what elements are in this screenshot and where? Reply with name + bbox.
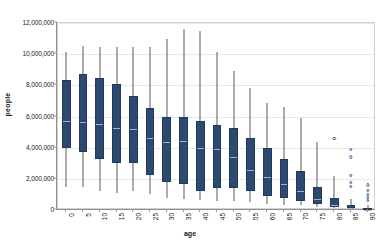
box-plot-75	[313, 23, 322, 208]
box-iqr	[229, 128, 238, 188]
outlier-point	[366, 189, 369, 192]
x-axis-tick-mark	[283, 209, 284, 212]
x-axis-tick-mark	[216, 209, 217, 212]
x-axis-tick-label: 80	[336, 213, 343, 220]
box-iqr	[79, 74, 88, 153]
box-iqr	[146, 108, 155, 175]
median-line	[281, 184, 288, 185]
x-axis-tick-label: 75	[319, 213, 326, 220]
box-iqr	[263, 148, 272, 196]
box-iqr	[162, 117, 171, 182]
x-axis-tick-label: 90	[369, 213, 376, 220]
x-axis-title-text: age	[184, 230, 196, 237]
x-axis-tick-mark	[266, 209, 267, 212]
x-axis-tick-mark	[199, 209, 200, 212]
x-axis-tick-mark	[233, 209, 234, 212]
median-line	[214, 149, 221, 150]
x-axis-tick-mark	[249, 209, 250, 212]
box-iqr	[330, 198, 339, 207]
y-axis-tick-mark	[54, 177, 57, 178]
box-plot-0	[62, 23, 71, 208]
y-axis-tick-label: 10,000,000	[22, 50, 54, 57]
y-axis-tick-label: 4,000,000	[26, 143, 54, 150]
x-axis-tick-label: 25	[152, 213, 159, 220]
box-plot-50	[229, 23, 238, 208]
box-iqr	[280, 159, 289, 198]
box-plot-70	[296, 23, 305, 208]
box-plot-45	[213, 23, 222, 208]
y-axis-tick-mark	[54, 146, 57, 147]
median-line	[80, 122, 87, 123]
median-line	[264, 177, 271, 178]
y-axis-ticks: 02,000,0004,000,0006,000,0008,000,00010,…	[0, 0, 54, 245]
y-axis-tick-mark	[54, 22, 57, 23]
x-axis-tick-label: 35	[185, 213, 192, 220]
box-iqr	[296, 171, 305, 201]
x-axis-tick-mark	[82, 209, 83, 212]
box-plot-60	[263, 23, 272, 208]
x-axis-tick-label: 30	[168, 213, 175, 220]
box-plot-35	[179, 23, 188, 208]
box-plot-55	[246, 23, 255, 208]
box-plot-chart: people 02,000,0004,000,0006,000,0008,000…	[0, 0, 380, 245]
median-line	[314, 199, 321, 200]
median-line	[297, 191, 304, 192]
box-plot-90	[363, 23, 372, 208]
outlier-point	[349, 181, 352, 184]
x-axis-tick-mark	[300, 209, 301, 212]
x-axis-tick-label: 0	[68, 213, 75, 217]
x-axis-tick-label: 15	[118, 213, 125, 220]
x-axis-tick-label: 55	[252, 213, 259, 220]
x-axis-tick-label: 60	[269, 213, 276, 220]
box-iqr	[347, 205, 356, 208]
box-plot-5	[79, 23, 88, 208]
box-iqr	[196, 121, 205, 190]
x-axis-title: age	[0, 230, 380, 237]
box-plot-30	[162, 23, 171, 208]
x-axis-tick-mark	[116, 209, 117, 212]
outlier-point	[349, 174, 352, 177]
box-plot-15	[112, 23, 121, 208]
x-axis-tick-mark	[350, 209, 351, 212]
box-iqr	[95, 78, 104, 159]
box-iqr	[313, 187, 322, 203]
outlier-point	[366, 199, 369, 202]
box-iqr	[246, 138, 255, 192]
x-axis-tick-mark	[149, 209, 150, 212]
y-axis-tick-mark	[54, 209, 57, 210]
median-line	[113, 128, 120, 129]
box-iqr	[129, 96, 138, 163]
outlier-point	[349, 185, 352, 188]
outlier-point	[349, 155, 352, 158]
x-axis-tick-label: 50	[235, 213, 242, 220]
box-plot-80	[330, 23, 339, 208]
box-plot-85	[347, 23, 356, 208]
x-axis-tick-mark	[65, 209, 66, 212]
median-line	[230, 157, 237, 158]
x-axis-tick-label: 85	[352, 213, 359, 220]
median-line	[96, 124, 103, 125]
outlier-point	[366, 183, 369, 186]
y-axis-tick-mark	[54, 115, 57, 116]
y-axis-tick-label: 8,000,000	[26, 81, 54, 88]
median-line	[163, 142, 170, 143]
median-line	[180, 141, 187, 142]
median-line	[147, 138, 154, 139]
x-axis-tick-label: 70	[302, 213, 309, 220]
box-plot-20	[129, 23, 138, 208]
x-axis-tick-mark	[99, 209, 100, 212]
box-iqr	[112, 84, 121, 163]
x-axis-tick-label: 20	[135, 213, 142, 220]
x-axis-tick-label: 10	[101, 213, 108, 220]
median-line	[63, 121, 70, 122]
x-axis-tick-label: 40	[202, 213, 209, 220]
box-plot-65	[280, 23, 289, 208]
median-line	[130, 129, 137, 130]
outlier-point	[349, 148, 352, 151]
x-axis-tick-mark	[316, 209, 317, 212]
y-axis-tick-mark	[54, 84, 57, 85]
box-iqr	[179, 117, 188, 185]
x-axis-tick-mark	[132, 209, 133, 212]
box-iqr	[213, 125, 222, 188]
y-axis-tick-label: 6,000,000	[26, 112, 54, 119]
